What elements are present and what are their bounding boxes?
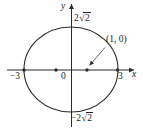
x-intercept-right-label: 3 bbox=[118, 72, 123, 82]
x-axis-label: x bbox=[132, 70, 136, 80]
top-radicand: 2 bbox=[83, 12, 90, 23]
focus-dot-left bbox=[54, 68, 57, 71]
origin-label: 0 bbox=[61, 72, 66, 82]
bottom-coefficient: −2 bbox=[71, 113, 81, 123]
focus-point-label: (1, 0) bbox=[106, 35, 127, 45]
y-axis-label: y bbox=[61, 2, 65, 12]
x-intercept-left-label: −3 bbox=[10, 72, 20, 82]
bottom-radicand: 2 bbox=[86, 112, 93, 123]
y-intercept-top-label: 2√2 bbox=[74, 12, 91, 23]
figure-ellipse-graph: y 2√2 (1, 0) −3 0 3 x −2√2 bbox=[0, 0, 143, 132]
focus-dot-right bbox=[85, 68, 88, 71]
vertex-dot-left bbox=[22, 68, 25, 71]
y-intercept-bottom-label: −2√2 bbox=[71, 112, 93, 123]
focus-label-arrow bbox=[90, 48, 106, 66]
top-coefficient: 2 bbox=[74, 13, 79, 23]
